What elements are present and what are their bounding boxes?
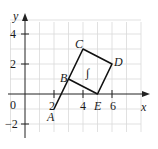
point-label-e: E [93,99,102,113]
origin-label: 0 [10,98,16,112]
coordinate-diagram: y x 0 4 2 −2 2 4 6 A B C D E ∫ [0,0,158,149]
y-axis-arrow-icon [22,13,28,21]
point-label-d: D [113,55,123,69]
point-label-c: C [75,37,84,51]
x-axis-arrow-icon [142,91,150,97]
region-label: ∫ [85,66,90,80]
rectangle-bcde [69,49,113,94]
x-tick-label-4: 4 [80,99,86,113]
y-tick-label-neg2: −2 [5,117,18,131]
point-label-a: A [46,110,55,124]
y-tick-label-2: 2 [10,57,16,71]
y-axis-label: y [12,9,19,23]
y-tick-label-4: 4 [10,27,16,41]
x-axis-label: x [140,100,147,114]
point-label-b: B [60,71,68,85]
x-tick-label-6: 6 [110,99,116,113]
